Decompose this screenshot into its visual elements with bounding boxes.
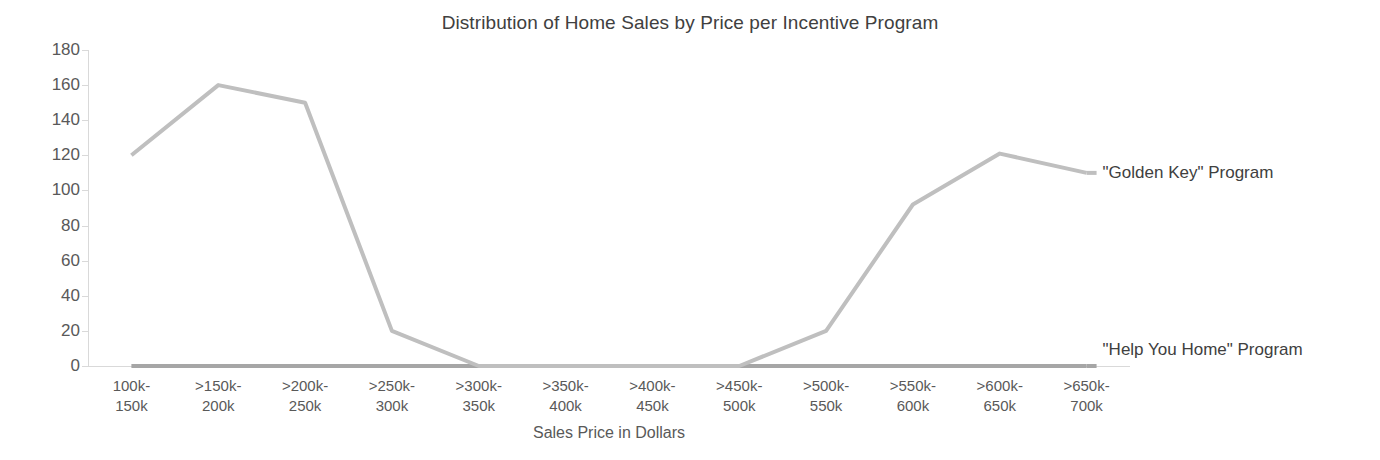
x-tick-label: >200k-250k <box>262 376 349 417</box>
x-tick-label-line: 500k <box>696 396 783 416</box>
x-tick-label-line: >350k- <box>522 376 609 396</box>
x-tick-label: >300k-350k <box>435 376 522 417</box>
chart-title: Distribution of Home Sales by Price per … <box>0 12 1380 34</box>
y-tick-label: 140 <box>34 111 80 128</box>
x-tick-label: >450k-500k <box>696 376 783 417</box>
y-tick-label: 60 <box>34 252 80 269</box>
x-tick-label-line: >300k- <box>435 376 522 396</box>
x-tick-label-line: >400k- <box>609 376 696 396</box>
x-tick-label-line: 650k <box>956 396 1043 416</box>
y-tick-mark <box>82 331 88 332</box>
series-label-help-you-home: "Help You Home" Program <box>1103 340 1303 360</box>
x-tick-label-line: 200k <box>175 396 262 416</box>
x-tick-label-line: 700k <box>1043 396 1130 416</box>
x-tick-label-line: 600k <box>870 396 957 416</box>
y-tick-mark <box>82 296 88 297</box>
y-tick-label: 100 <box>34 181 80 198</box>
x-tick-label: 100k-150k <box>88 376 175 417</box>
x-axis-title: Sales Price in Dollars <box>88 424 1130 442</box>
y-tick-label: 20 <box>34 322 80 339</box>
x-tick-label: >400k-450k <box>609 376 696 417</box>
line-chart: Distribution of Home Sales by Price per … <box>0 0 1380 460</box>
series-label-golden-key: "Golden Key" Program <box>1103 163 1274 183</box>
y-tick-label: 80 <box>34 217 80 234</box>
y-axis-tick-labels: 020406080100120140160180 <box>24 0 80 460</box>
x-tick-label-line: >600k- <box>956 376 1043 396</box>
x-tick-label-line: 300k <box>349 396 436 416</box>
x-axis-line <box>88 366 1130 367</box>
x-tick-label-line: 350k <box>435 396 522 416</box>
x-tick-label: >500k-550k <box>783 376 870 417</box>
x-tick-label: >550k-600k <box>870 376 957 417</box>
x-tick-label-line: 100k- <box>88 376 175 396</box>
y-tick-mark <box>82 155 88 156</box>
x-tick-label-line: 450k <box>609 396 696 416</box>
x-tick-label: >650k-700k <box>1043 376 1130 417</box>
x-tick-label-line: 400k <box>522 396 609 416</box>
x-tick-label-line: 250k <box>262 396 349 416</box>
x-tick-label-line: >650k- <box>1043 376 1130 396</box>
y-tick-mark <box>82 366 88 367</box>
x-tick-label-line: >450k- <box>696 376 783 396</box>
y-tick-label: 180 <box>34 41 80 58</box>
x-tick-label: >600k-650k <box>956 376 1043 417</box>
y-tick-mark <box>82 85 88 86</box>
x-tick-label: >350k-400k <box>522 376 609 417</box>
x-tick-label-line: 150k <box>88 396 175 416</box>
y-tick-label: 40 <box>34 287 80 304</box>
x-tick-label: >250k-300k <box>349 376 436 417</box>
y-tick-label: 0 <box>34 357 80 374</box>
y-axis-line <box>88 50 89 367</box>
x-tick-label: >150k-200k <box>175 376 262 417</box>
y-tick-label: 160 <box>34 76 80 93</box>
y-tick-mark <box>82 226 88 227</box>
y-tick-mark <box>82 261 88 262</box>
y-tick-mark <box>82 120 88 121</box>
y-tick-mark <box>82 190 88 191</box>
x-tick-label-line: >250k- <box>349 376 436 396</box>
y-tick-mark <box>82 50 88 51</box>
series-line-golden-key <box>131 85 1086 366</box>
x-tick-label-line: 550k <box>783 396 870 416</box>
x-tick-label-line: >200k- <box>262 376 349 396</box>
x-tick-label-line: >500k- <box>783 376 870 396</box>
y-tick-label: 120 <box>34 146 80 163</box>
x-tick-label-line: >150k- <box>175 376 262 396</box>
x-tick-label-line: >550k- <box>870 376 957 396</box>
